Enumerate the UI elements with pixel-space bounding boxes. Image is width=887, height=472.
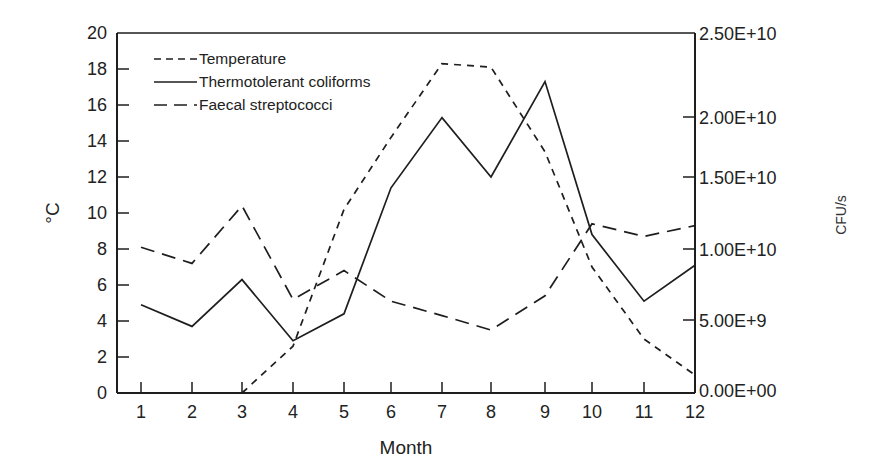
y-right-tick-label: 1.00E+10 [699, 240, 777, 260]
x-tick-label: 12 [685, 402, 705, 422]
y-tick-label: 0 [97, 383, 107, 403]
y-tick-label: 14 [87, 131, 107, 151]
x-tick-label: 11 [635, 402, 654, 422]
legend-label: Temperature [199, 50, 286, 67]
x-tick-label: 10 [582, 402, 602, 422]
x-tick-label: 3 [237, 402, 247, 422]
y-tick-label: 6 [97, 275, 107, 295]
y-tick-label: 4 [97, 311, 107, 331]
x-tick-label: 1 [136, 402, 146, 422]
y-tick-label: 18 [87, 59, 107, 79]
series-line-thermotolerant-coliforms [141, 82, 695, 341]
legend: TemperatureThermotolerant coliformsFaeca… [154, 50, 371, 113]
x-tick-label: 8 [486, 402, 496, 422]
legend-label: Faecal streptococci [199, 96, 333, 113]
x-tick-label: 2 [187, 402, 197, 422]
y-axis-title-right: CFU/s [833, 195, 849, 235]
y-tick-label: 2 [97, 347, 107, 367]
x-tick-label: 7 [437, 402, 447, 422]
chart: 024681012141618201234567891011120.00E+00… [0, 0, 887, 472]
y-axis-title-left: °C [42, 202, 63, 223]
y-tick-label: 20 [87, 23, 107, 43]
y-tick-label: 10 [87, 203, 107, 223]
series-layer [141, 64, 695, 393]
series-line-temperature [242, 64, 695, 393]
y-right-tick-label: 1.50E+10 [699, 168, 777, 188]
y-right-tick-label: 2.50E+10 [699, 24, 777, 44]
y-tick-label: 8 [97, 239, 107, 259]
y-right-tick-label: 5.00E+9 [699, 311, 767, 331]
x-tick-label: 5 [339, 402, 349, 422]
x-tick-label: 6 [386, 402, 396, 422]
y-right-tick-label: 2.00E+10 [699, 108, 777, 128]
x-tick-label: 4 [288, 402, 298, 422]
y-tick-label: 12 [87, 167, 107, 187]
x-axis-title: Month [380, 437, 433, 458]
x-tick-label: 9 [540, 402, 550, 422]
y-tick-label: 16 [87, 95, 107, 115]
axes: 024681012141618201234567891011120.00E+00… [87, 23, 777, 422]
y-right-tick-label: 0.00E+00 [699, 381, 777, 401]
legend-label: Thermotolerant coliforms [199, 73, 371, 90]
series-line-faecal-streptococci [141, 206, 695, 330]
